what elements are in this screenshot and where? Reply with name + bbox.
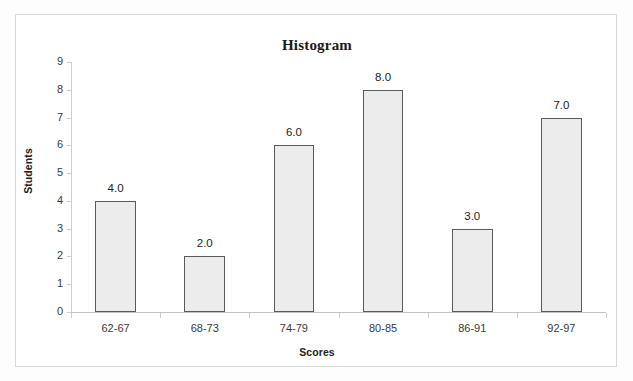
bar-value-label: 3.0 bbox=[428, 210, 517, 222]
bar-value-label: 4.0 bbox=[71, 182, 160, 194]
x-tick-mark bbox=[606, 313, 607, 318]
y-tick-label: 4 bbox=[41, 195, 63, 206]
x-tick-mark bbox=[160, 313, 161, 318]
y-tick-label: 9 bbox=[41, 56, 63, 67]
bar-value-label: 2.0 bbox=[160, 237, 249, 249]
x-tick-label: 62-67 bbox=[71, 322, 160, 334]
bar[interactable] bbox=[541, 118, 582, 312]
chart-frame: Histogram Students Scores 0123456789 4.0… bbox=[15, 14, 617, 367]
y-tick-label: 3 bbox=[41, 223, 63, 234]
y-tick-label: 8 bbox=[41, 84, 63, 95]
y-tick-label: 2 bbox=[41, 250, 63, 261]
histogram-screenshot: Histogram Students Scores 0123456789 4.0… bbox=[0, 0, 633, 381]
x-tick-label: 74-79 bbox=[249, 322, 338, 334]
bar-value-label: 8.0 bbox=[339, 71, 428, 83]
bar[interactable] bbox=[95, 201, 136, 312]
y-tick-label: 5 bbox=[41, 167, 63, 178]
bar[interactable] bbox=[452, 229, 493, 312]
bar[interactable] bbox=[274, 145, 315, 312]
x-tick-mark bbox=[428, 313, 429, 318]
bar[interactable] bbox=[363, 90, 404, 312]
y-tick-label: 6 bbox=[41, 139, 63, 150]
bar-value-label: 6.0 bbox=[249, 126, 338, 138]
y-tick-label: 1 bbox=[41, 278, 63, 289]
chart-title: Histogram bbox=[16, 37, 618, 54]
x-tick-mark bbox=[517, 313, 518, 318]
x-tick-mark bbox=[71, 313, 72, 318]
y-tick-label: 7 bbox=[41, 112, 63, 123]
x-tick-label: 92-97 bbox=[517, 322, 606, 334]
x-tick-label: 68-73 bbox=[160, 322, 249, 334]
bar[interactable] bbox=[184, 256, 225, 312]
x-tick-label: 80-85 bbox=[339, 322, 428, 334]
x-tick-mark bbox=[249, 313, 250, 318]
bar-value-label: 7.0 bbox=[517, 99, 606, 111]
x-axis-title: Scores bbox=[16, 346, 618, 358]
x-tick-label: 86-91 bbox=[428, 322, 517, 334]
y-tick-label: 0 bbox=[41, 306, 63, 317]
x-tick-mark bbox=[339, 313, 340, 318]
y-axis-title: Students bbox=[22, 141, 34, 201]
